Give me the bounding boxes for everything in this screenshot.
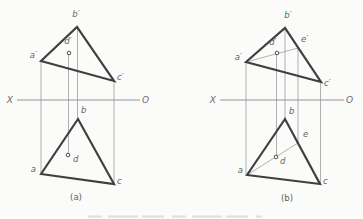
label-a: a (238, 165, 243, 175)
top-view-triangle-abc (247, 119, 320, 184)
label-d: d (280, 156, 286, 166)
label-x-axis: X (6, 95, 14, 105)
top-view-triangle-abc (41, 119, 114, 184)
label-e: e (303, 129, 308, 139)
diagram-a: XOa′b′c′d′abcd(a) (6, 9, 149, 202)
label-e-prime: e′ (301, 34, 308, 44)
label-d: d (73, 154, 79, 164)
label-c-prime: c′ (117, 72, 124, 82)
cut-line-a-e-line (247, 143, 298, 175)
front-view-triangle-abc-prime (246, 28, 321, 82)
label-b-prime: b′ (72, 9, 79, 19)
projection-figure: XOa′b′c′d′abcd(a)XOa′b′c′d′e′abcde(b) (0, 0, 363, 219)
point-d-prime-marker (275, 51, 279, 55)
label-o-axis: O (142, 95, 149, 105)
diagram-b: XOa′b′c′d′e′abcde(b) (209, 10, 353, 203)
label-b: b (289, 106, 294, 116)
label-c: c (323, 176, 328, 186)
point-d-marker (274, 155, 278, 159)
label-a-prime: a′ (235, 52, 242, 62)
label-a: a (31, 164, 36, 174)
label-a-prime: a′ (30, 50, 37, 60)
label-c-prime: c′ (324, 78, 331, 88)
label-x-axis: X (209, 95, 217, 105)
label-d-prime: d′ (269, 37, 276, 47)
subfigure-caption-a: (a) (70, 192, 82, 202)
point-d-prime-marker (67, 51, 71, 55)
label-b: b (81, 105, 86, 115)
descriptive-geometry-diagram: XOa′b′c′d′abcd(a)XOa′b′c′d′e′abcde(b) (0, 0, 363, 219)
point-d-marker (66, 153, 70, 157)
subfigure-caption-b: (b) (281, 193, 293, 203)
label-c: c (117, 176, 122, 186)
label-b-prime: b′ (284, 10, 291, 20)
label-d-prime: d′ (64, 36, 71, 46)
label-o-axis: O (346, 95, 353, 105)
